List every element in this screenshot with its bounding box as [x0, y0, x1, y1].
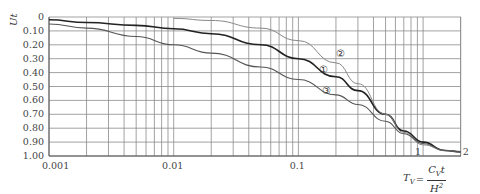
grid-lines: [49, 17, 461, 156]
y-tick-label: 0.40: [14, 67, 44, 78]
x-label-lhs: TV: [403, 172, 415, 186]
x-tick-label: 0.1: [290, 160, 305, 171]
y-tick-label: 1.00: [14, 150, 44, 161]
curves: [49, 18, 461, 151]
y-tick-label: 0.90: [14, 136, 44, 147]
y-tick-label: 0.50: [14, 81, 44, 92]
x-label-fraction: CVt H2: [427, 164, 446, 194]
curve-label: ②: [336, 48, 345, 59]
y-tick-label: 0.20: [14, 39, 44, 50]
y-axis-label: Ut: [8, 14, 19, 26]
y-tick-label: 0.70: [14, 108, 44, 119]
y-tick-label: 0.60: [14, 94, 44, 105]
equals-sign: =: [416, 174, 424, 185]
x-tick-label: 0.01: [162, 160, 183, 171]
y-tick-label: 0.10: [14, 25, 44, 36]
curve-2: [49, 24, 461, 152]
x-tick-label: 2: [463, 146, 469, 157]
y-tick-label: 0.30: [14, 53, 44, 64]
x-tick-label: 1: [415, 146, 421, 157]
curve-label: ①: [319, 64, 328, 75]
curve-label: ③: [322, 85, 331, 96]
y-tick-label: 0.80: [14, 122, 44, 133]
x-tick-label: 0.001: [42, 160, 69, 171]
x-axis-label: TV = CVt H2: [403, 164, 446, 194]
